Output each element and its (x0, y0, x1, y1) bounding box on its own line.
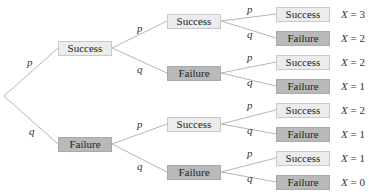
branch-label-p: p (247, 51, 253, 63)
level1-failure-node: Failure (58, 137, 112, 152)
x-value-label: X = 2 (341, 104, 365, 116)
level2-failure-node: Failure (167, 66, 221, 81)
x-value-label: X = 2 (341, 32, 365, 44)
branch-label-p: p (247, 99, 253, 111)
x-value-label: X = 1 (341, 128, 365, 140)
branch-label-q: q (247, 28, 253, 40)
x-value-label: X = 3 (341, 8, 365, 20)
x-value-label: X = 1 (341, 152, 365, 164)
level2-failure-node: Failure (167, 165, 221, 180)
x-value-label: X = 2 (341, 56, 365, 68)
branch-label-p: p (27, 56, 33, 68)
level3-success-node: Success (276, 7, 330, 22)
level2-success-node: Success (167, 14, 221, 29)
level3-failure-node: Failure (276, 31, 330, 46)
x-value-label: X = 0 (341, 176, 365, 188)
level3-failure-node: Failure (276, 79, 330, 94)
branch-label-q: q (137, 160, 143, 172)
branch-label-q: q (137, 63, 143, 75)
branch-label-p: p (137, 118, 143, 130)
level3-success-node: Success (276, 151, 330, 166)
level3-success-node: Success (276, 55, 330, 70)
level3-success-node: Success (276, 103, 330, 118)
level3-failure-node: Failure (276, 175, 330, 190)
x-value-label: X = 1 (341, 80, 365, 92)
branch-label-p: p (247, 3, 253, 15)
branch-label-q: q (247, 124, 253, 136)
branch-label-p: p (137, 22, 143, 34)
level1-success-node: Success (58, 41, 112, 56)
branch-label-q: q (247, 76, 253, 88)
level2-success-node: Success (167, 117, 221, 132)
branch-label-q: q (247, 172, 253, 184)
level3-failure-node: Failure (276, 127, 330, 142)
branch-label-q: q (29, 125, 35, 137)
branch-label-p: p (247, 147, 253, 159)
